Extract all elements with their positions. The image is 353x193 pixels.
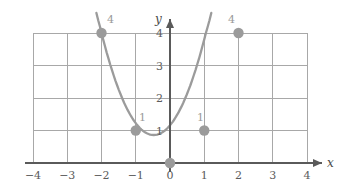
y-tick-label-1: 1 (153, 125, 163, 136)
point-label--1-1: 1 (139, 112, 146, 123)
x-tick-label-1: 1 (201, 170, 208, 181)
x-tick-label--1: −1 (128, 170, 144, 181)
point-marker-0-0 (165, 158, 175, 168)
x-tick-label--2: −2 (93, 170, 109, 181)
point-label-2-4: 4 (228, 14, 235, 25)
y-axis (166, 19, 174, 172)
point-label--2-4: 4 (107, 14, 114, 25)
point-marker-2-4 (233, 28, 243, 38)
x-tick-label-3: 3 (269, 170, 276, 181)
x-tick-label-2: 2 (235, 170, 242, 181)
x-tick-label-4: 4 (304, 170, 311, 181)
y-tick-label-3: 3 (153, 60, 163, 71)
y-tick-label-2: 2 (153, 93, 163, 104)
parabola-graph-figure: −4 −3 −2 −1 0 1 2 3 4 1 2 3 4 x y 4 1 1 … (0, 0, 353, 193)
point-marker--1-1 (131, 125, 141, 135)
point-marker--2-4 (96, 28, 106, 38)
y-axis-arrowhead (166, 19, 174, 28)
x-axis-arrowhead (313, 159, 322, 167)
x-axis-label: x (327, 157, 334, 169)
plot-canvas (0, 0, 353, 193)
y-axis-label: y (155, 13, 162, 25)
point-marker-1-1 (199, 125, 209, 135)
x-tick-label-0: 0 (167, 170, 174, 181)
x-tick-label--4: −4 (25, 170, 41, 181)
point-label-1-1: 1 (197, 112, 204, 123)
x-tick-label--3: −3 (59, 170, 75, 181)
y-tick-label-4: 4 (153, 28, 163, 39)
